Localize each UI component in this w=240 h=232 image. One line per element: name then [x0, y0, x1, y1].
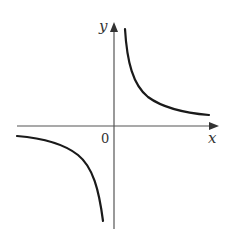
x-axis-label: x — [208, 129, 217, 147]
y-axis-arrow-icon — [110, 22, 118, 32]
y-axis-label: y — [98, 17, 108, 35]
origin-label: 0 — [101, 131, 109, 146]
hyperbola-graph: y x 0 — [0, 0, 240, 232]
hyperbola-branch-upper-right — [125, 29, 209, 115]
hyperbola-branch-lower-left — [17, 136, 103, 221]
